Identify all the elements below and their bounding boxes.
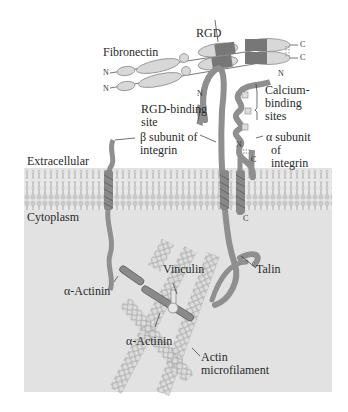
label-rgd-binding-site: site	[141, 116, 158, 129]
label-alpha-integrin: integrin	[271, 157, 308, 170]
terminus-c-3: C	[251, 155, 256, 164]
terminus-n-4: N	[278, 69, 284, 78]
terminus-c-2: C	[300, 53, 305, 62]
label-fibronectin: Fibronectin	[103, 46, 158, 59]
terminus-n-5: N	[236, 140, 242, 149]
label-alpha-actinin-2: α-Actinin	[126, 335, 172, 348]
label-actin-microfilament: microfilament	[201, 364, 269, 377]
label-cytoplasm: Cytoplasm	[27, 211, 79, 224]
plasma-membrane	[24, 170, 332, 210]
terminus-n-3: N	[197, 89, 203, 98]
label-alpha-actinin-1: α-Actinin	[64, 285, 110, 298]
terminus-c-1: C	[300, 40, 305, 49]
integrin-diagram	[0, 0, 348, 412]
label-beta-integrin: integrin	[140, 144, 177, 157]
label-calcium-sites: sites	[265, 110, 286, 123]
terminus-c-4: C	[243, 214, 248, 223]
label-rgd: RGD	[196, 27, 221, 40]
label-talin: Talin	[256, 263, 281, 276]
label-extracellular: Extracellular	[27, 155, 89, 168]
terminus-n-1: N	[103, 68, 109, 77]
terminus-n-2: N	[103, 84, 109, 93]
label-vinculin: Vinculin	[163, 263, 204, 276]
